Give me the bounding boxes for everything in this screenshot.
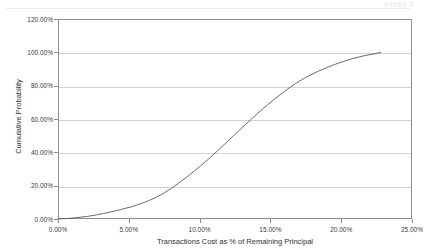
cumulative-probability-chart: Exhibit 3 Cumulative Probability 0.00%20…: [0, 0, 435, 251]
y-axis-tick-label: 60.00%: [0, 116, 53, 123]
x-axis-tick-mark: [200, 219, 201, 223]
y-axis-tick-label: 0.00%: [0, 216, 53, 223]
y-axis-tick-label: 80.00%: [0, 82, 53, 89]
x-axis-tick-mark: [341, 219, 342, 223]
x-axis-tick-mark: [58, 219, 59, 223]
clipped-header-rule: [6, 8, 410, 9]
x-axis-tick-mark: [270, 219, 271, 223]
x-axis-tick-label: 0.00%: [28, 226, 88, 234]
y-axis-tick-label: 20.00%: [0, 182, 53, 189]
x-axis-tick-label: 15.00%: [240, 226, 300, 234]
y-axis-tick-label: 40.00%: [0, 149, 53, 156]
x-axis-tick-label: 25.00%: [382, 226, 435, 234]
x-axis-tick-mark: [129, 219, 130, 223]
y-axis-tick-label: 120.00%: [0, 16, 53, 23]
y-axis-tick-label: 100.00%: [0, 49, 53, 56]
series-line-cumulative-probability: [58, 19, 412, 219]
x-axis-tick-label: 20.00%: [311, 226, 371, 234]
x-axis-tick-label: 5.00%: [99, 226, 159, 234]
x-axis-tick-label: 10.00%: [170, 226, 230, 234]
x-axis-title: Transactions Cost as % of Remaining Prin…: [58, 237, 412, 246]
x-axis-tick-mark: [412, 219, 413, 223]
